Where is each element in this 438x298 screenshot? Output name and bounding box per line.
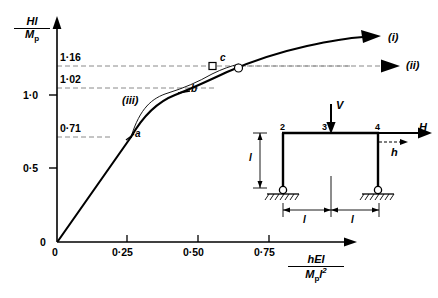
- gridline-label-0-71: 0·71: [60, 122, 81, 134]
- support-pin-left: [265, 186, 299, 200]
- point-b-tick: [178, 91, 190, 93]
- curve-label-iii: (iii): [122, 94, 139, 106]
- marker-circle: [235, 64, 243, 72]
- y-tick-label-0: 0: [40, 236, 46, 248]
- curve-i-arrowhead: [361, 30, 381, 43]
- y-tick-label-1-0: 1·0: [23, 89, 38, 101]
- inset-frame-diagram: [236, 100, 438, 230]
- node-label-2: 2: [280, 122, 285, 132]
- point-label-a: a: [135, 128, 141, 139]
- dimension-label-column-height: l: [249, 152, 252, 163]
- load-arrow-V: [326, 104, 335, 134]
- sway-label-h: h: [391, 146, 398, 158]
- sway-arrow-h: [379, 139, 408, 145]
- x-tick-label-0-75: 0·75: [254, 246, 275, 258]
- x-axis-title: hEI Mpl2: [288, 254, 344, 283]
- y-tick-label-0-5: 0·5: [23, 162, 38, 174]
- dimension-left-span: [283, 203, 331, 217]
- support-pin-right: [360, 186, 394, 200]
- dimension-column-height: [253, 133, 267, 188]
- point-label-b: b: [191, 83, 197, 94]
- point-label-c: c: [220, 52, 226, 63]
- dimension-right-span: [331, 203, 379, 217]
- load-label-H: H: [419, 121, 427, 133]
- curve-label-i: (i): [388, 31, 398, 43]
- x-tick-label-0-25: 0·25: [112, 246, 133, 258]
- y-axis-title: Hl Mp: [14, 16, 50, 43]
- load-label-V: V: [336, 99, 343, 111]
- x-tick-label-0-50: 0·50: [183, 246, 204, 258]
- curve-i: [58, 137, 131, 241]
- gridline-label-1-16: 1·16: [60, 51, 81, 63]
- figure-root: Hl Mp hEI Mpl2 1·0 0·5 0 1·16 1·02 0·71 …: [0, 0, 438, 298]
- curve-ii-arrowhead: [381, 60, 400, 73]
- node-label-4: 4: [375, 122, 380, 132]
- dimension-label-left-span: l: [303, 214, 306, 225]
- node-label-3: 3: [322, 122, 327, 132]
- dimension-label-right-span: l: [351, 214, 354, 225]
- x-tick-label-0: 0: [52, 246, 58, 258]
- marker-square-c: [209, 63, 216, 70]
- curve-label-ii: (ii): [406, 59, 419, 71]
- gridline-label-1-02: 1·02: [60, 73, 81, 85]
- x-axis: [57, 235, 357, 246]
